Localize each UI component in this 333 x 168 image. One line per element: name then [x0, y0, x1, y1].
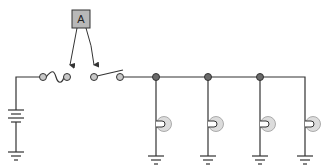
ground-icon	[200, 156, 216, 164]
grounds	[8, 152, 313, 164]
switch	[91, 70, 124, 81]
meter-leads	[70, 28, 94, 65]
lamps	[156, 117, 321, 132]
ground-icon	[8, 152, 24, 160]
ammeter-label: A	[77, 13, 85, 25]
lamp	[305, 117, 321, 132]
battery	[8, 110, 24, 122]
lamp	[156, 117, 172, 132]
ground-icon	[297, 156, 313, 164]
lamp	[260, 117, 276, 132]
wires	[16, 77, 305, 156]
lamp	[208, 117, 224, 132]
ground-icon	[252, 156, 268, 164]
ammeter: A	[72, 10, 90, 28]
circuit-diagram: A	[0, 0, 333, 168]
ground-icon	[148, 156, 164, 164]
fuse	[40, 72, 71, 83]
